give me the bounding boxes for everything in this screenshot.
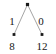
left-leaf-value: 8 [9, 40, 15, 51]
left-branch-edge [14, 5, 28, 35]
decision-tree-figure: 1 0 8 12 [0, 0, 56, 54]
right-leaf-value: 12 [37, 40, 48, 51]
right-branch-label: 0 [38, 16, 44, 27]
left-branch-label: 1 [9, 16, 15, 27]
right-leaf-node-marker [41, 33, 44, 36]
left-leaf-node-marker [13, 33, 16, 36]
root-node-marker [26, 3, 29, 6]
